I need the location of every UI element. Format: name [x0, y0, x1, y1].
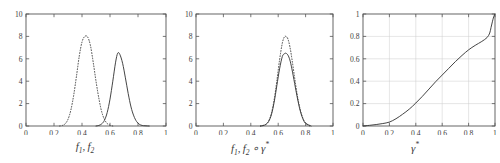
panel-left-plot-area: 00.20.40.60.810246810 — [0, 0, 170, 135]
svg-text:0.2: 0.2 — [219, 129, 229, 135]
svg-text:10: 10 — [15, 10, 23, 19]
svg-text:2: 2 — [189, 99, 193, 108]
panel-right-plot-area: 00.20.40.60.8100.20.40.60.81 — [330, 0, 500, 135]
svg-text:0: 0 — [356, 122, 360, 131]
svg-text:2: 2 — [19, 99, 23, 108]
svg-text:1: 1 — [356, 10, 360, 19]
svg-text:0.6: 0.6 — [437, 129, 447, 135]
svg-text:0.8: 0.8 — [350, 32, 360, 41]
svg-text:0.4: 0.4 — [411, 129, 421, 135]
svg-text:6: 6 — [189, 55, 193, 64]
svg-text:0.4: 0.4 — [246, 129, 256, 135]
svg-text:0.6: 0.6 — [350, 55, 360, 64]
svg-text:0: 0 — [19, 122, 23, 131]
panel-left: 00.20.40.60.810246810 f1, f2 f1, f2 — [0, 0, 170, 163]
svg-text:8: 8 — [19, 32, 23, 41]
svg-text:1: 1 — [493, 129, 497, 135]
svg-text:8: 8 — [189, 32, 193, 41]
svg-text:4: 4 — [189, 77, 193, 86]
svg-text:0.2: 0.2 — [350, 99, 360, 108]
svg-text:10: 10 — [185, 10, 193, 19]
svg-text:0.2: 0.2 — [385, 129, 395, 135]
svg-text:6: 6 — [19, 55, 23, 64]
svg-text:0: 0 — [189, 122, 193, 131]
panel-left-xaxis-label: f1, f2 — [0, 140, 170, 155]
svg-text:0.2: 0.2 — [49, 129, 59, 135]
svg-text:0.6: 0.6 — [105, 129, 115, 135]
panel-right: 00.20.40.60.8100.20.40.60.81 γ* γ* — [330, 0, 500, 163]
svg-text:0: 0 — [24, 129, 28, 135]
svg-text:0.8: 0.8 — [133, 129, 143, 135]
panel-middle: 00.20.40.60.810246810 f1, f2 ∘ γ* f1, f2… — [165, 0, 335, 163]
panel-right-xaxis-label: γ* — [330, 140, 500, 154]
svg-text:0.8: 0.8 — [464, 129, 474, 135]
panel-middle-xaxis-label: f1, f2 ∘ γ* — [165, 140, 335, 157]
svg-text:0.4: 0.4 — [77, 129, 87, 135]
svg-text:0.8: 0.8 — [301, 129, 311, 135]
svg-text:4: 4 — [19, 77, 23, 86]
panel-middle-plot-area: 00.20.40.60.810246810 — [165, 0, 335, 135]
figure-three-panel-plot: 00.20.40.60.810246810 f1, f2 f1, f2 00.2… — [0, 0, 500, 163]
svg-text:0.6: 0.6 — [273, 129, 283, 135]
svg-text:0: 0 — [361, 129, 365, 135]
svg-text:0.4: 0.4 — [350, 77, 360, 86]
svg-text:0: 0 — [194, 129, 198, 135]
